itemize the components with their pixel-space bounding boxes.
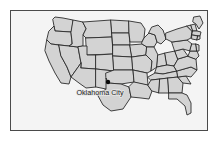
state-colorado[interactable]: Colorado [96, 54, 114, 71]
state-alabama[interactable]: Alabama [159, 78, 169, 93]
state-new-york[interactable]: New York [166, 26, 192, 42]
city-label-oklahoma-city: Oklahoma City [76, 88, 124, 97]
state-boundaries-layer: WashingtonOregonCaliforniaNevadaIdahoMon… [45, 16, 203, 115]
map-figure: WashingtonOregonCaliforniaNevadaIdahoMon… [0, 0, 218, 141]
state-kansas[interactable]: Kansas [113, 56, 133, 70]
state-florida[interactable]: Florida [169, 93, 191, 115]
state-washington[interactable]: Washington [53, 17, 73, 32]
state-minnesota[interactable]: Minnesota [129, 21, 145, 42]
state-oklahoma[interactable]: Oklahoma [106, 70, 134, 84]
state-south-dakota[interactable]: South Dakota [112, 33, 130, 45]
state-montana[interactable]: Montana [83, 20, 112, 38]
state-nebraska[interactable]: Nebraska [113, 45, 132, 57]
united-states-map[interactable]: WashingtonOregonCaliforniaNevadaIdahoMon… [11, 11, 207, 130]
state-wyoming[interactable]: Wyoming [86, 37, 113, 55]
city-marker-dot-oklahoma-city[interactable] [106, 80, 110, 84]
state-rhode-island[interactable]: Rhode Island [197, 36, 200, 40]
state-delaware[interactable]: Delaware [196, 44, 199, 51]
state-north-dakota[interactable]: North Dakota [111, 20, 129, 33]
map-frame-border: WashingtonOregonCaliforniaNevadaIdahoMon… [10, 10, 208, 131]
